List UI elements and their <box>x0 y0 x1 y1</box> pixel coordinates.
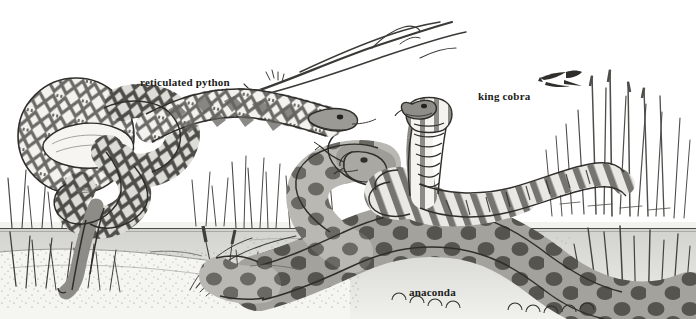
label-reticulated-python: reticulated python <box>140 76 230 88</box>
label-king-cobra: king cobra <box>478 90 530 102</box>
snake-illustration-artwork <box>0 0 696 319</box>
label-anaconda: anaconda <box>409 286 456 298</box>
illustration-scene: reticulated python king cobra anaconda <box>0 0 696 319</box>
